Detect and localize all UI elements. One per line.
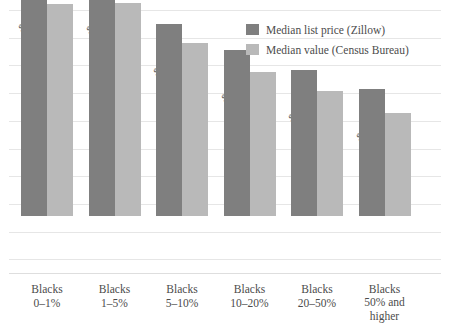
x-axis-label-line: Blacks <box>278 283 356 297</box>
bar-group <box>89 0 141 216</box>
legend: Median list price (Zillow) Median value … <box>246 21 446 61</box>
x-axis-label: Blacks5–10% <box>143 283 221 310</box>
x-axis-label-line: Blacks <box>346 283 424 297</box>
bar-median-value[interactable] <box>115 3 141 216</box>
x-axis-label: Blacks1–5% <box>76 283 154 310</box>
x-axis-label-line: 1–5% <box>76 297 154 311</box>
legend-swatch-median-list-price <box>246 24 259 35</box>
bar-group <box>156 0 208 216</box>
x-axis-label-line: 50% and <box>346 296 424 310</box>
legend-label-median-list-price: Median list price (Zillow) <box>266 24 385 36</box>
bar-median-value[interactable] <box>47 4 73 216</box>
x-axis-label-line: Blacks <box>76 283 154 297</box>
bar-list-price[interactable] <box>89 0 115 216</box>
bar-list-price[interactable] <box>156 24 182 216</box>
legend-label-median-value: Median value (Census Bureau) <box>266 44 409 56</box>
legend-item-1[interactable]: Median value (Census Bureau) <box>246 41 446 58</box>
bar-list-price[interactable] <box>224 50 250 216</box>
bar-median-value[interactable] <box>182 43 208 216</box>
x-axis-label-line: Blacks <box>8 283 86 297</box>
bar-list-price[interactable] <box>291 70 317 216</box>
bar-list-price[interactable] <box>359 89 385 216</box>
x-axis-label-line: 5–10% <box>143 297 221 311</box>
bar-list-price[interactable] <box>21 0 47 216</box>
x-axis-label: Blacks50% andhigher <box>346 283 424 324</box>
legend-item-0[interactable]: Median list price (Zillow) <box>246 21 446 38</box>
x-axis-label: Blacks10–20% <box>211 283 289 310</box>
x-axis-label-line: Blacks <box>211 283 289 297</box>
x-axis-label-line: 10–20% <box>211 297 289 311</box>
bar-chart: $341K$307K$338K$308K$278K$250K$240K$208K… <box>0 0 449 331</box>
legend-swatch-median-value <box>246 44 259 55</box>
x-axis-label: Blacks20–50% <box>278 283 356 310</box>
bar-group <box>21 0 73 216</box>
x-axis-label-line: Blacks <box>143 283 221 297</box>
x-axis-label: Blacks0–1% <box>8 283 86 310</box>
x-axis-label-line: higher <box>346 310 424 324</box>
bar-median-value[interactable] <box>385 113 411 216</box>
x-axis-label-line: 0–1% <box>8 297 86 311</box>
x-axis-label-line: 20–50% <box>278 297 356 311</box>
bar-median-value[interactable] <box>317 91 343 216</box>
bar-median-value[interactable] <box>250 72 276 216</box>
